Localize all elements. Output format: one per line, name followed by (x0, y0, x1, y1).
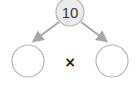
right-arrow (81, 22, 105, 40)
left-arrow (35, 22, 59, 40)
number-bond-diagram: 10 × (0, 0, 138, 88)
top-circle: 10 (56, 0, 84, 26)
right-circle[interactable] (96, 45, 128, 77)
top-value: 10 (62, 4, 79, 21)
multiply-operator: × (64, 54, 76, 70)
left-circle[interactable] (12, 45, 44, 77)
